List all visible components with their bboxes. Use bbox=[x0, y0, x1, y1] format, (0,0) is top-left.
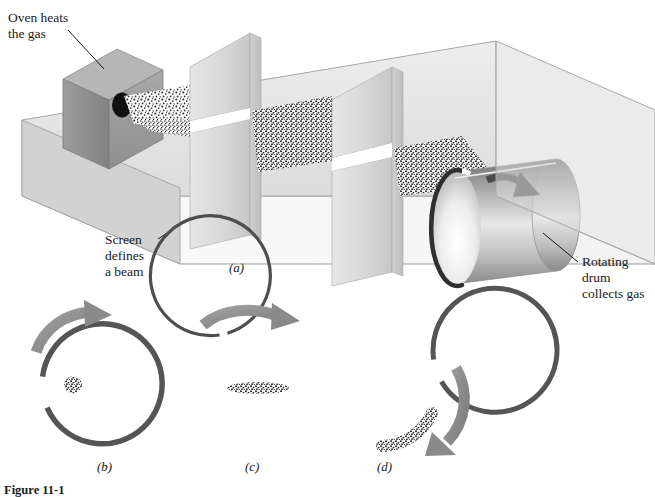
figure-caption: Figure 11-1 bbox=[4, 483, 65, 497]
drum-cross-section-b: (b) bbox=[36, 300, 162, 474]
rotation-arrow-d bbox=[447, 368, 464, 442]
screen-first-upper bbox=[190, 33, 250, 121]
drum-slot bbox=[462, 171, 470, 174]
oven-label-leader bbox=[68, 30, 104, 69]
screen-first-lower bbox=[190, 119, 250, 249]
ring-b bbox=[43, 324, 163, 444]
ring-d bbox=[433, 288, 557, 412]
deposit-arc-d bbox=[382, 413, 432, 446]
drum-cross-section-d: (d) bbox=[377, 288, 557, 474]
panel-label-c: (c) bbox=[245, 459, 259, 474]
panel-label-d: (d) bbox=[377, 459, 392, 474]
panel-label-a: (a) bbox=[229, 260, 244, 275]
figure-number: Figure 11-1 bbox=[4, 483, 65, 497]
screen-second-lower bbox=[332, 157, 392, 286]
figure-svg: Oven heats the gas Screen defines a beam… bbox=[0, 0, 655, 497]
rotation-arrow-b bbox=[36, 312, 92, 352]
panel-label-b: (b) bbox=[97, 459, 112, 474]
screen-second bbox=[332, 67, 403, 286]
oven-label: Oven heats the gas bbox=[8, 10, 72, 41]
rotation-arrow-c bbox=[203, 310, 278, 325]
screen-label: Screen defines a beam bbox=[105, 232, 147, 279]
deposit-blob-b bbox=[64, 377, 82, 394]
figure-container: Oven heats the gas Screen defines a beam… bbox=[0, 0, 655, 497]
deposit-smear-c bbox=[227, 382, 289, 394]
rotation-arrow-head-c bbox=[271, 303, 300, 330]
